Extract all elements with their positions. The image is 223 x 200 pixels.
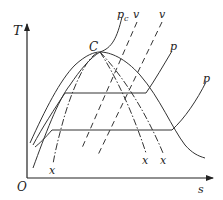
volume-label-2: v [159, 8, 166, 21]
quality-line-mid [100, 52, 146, 153]
axes [27, 24, 213, 178]
critical-pressure-sub: c [124, 14, 129, 23]
ts-diagram: T s O C pc v v p p x x x [0, 0, 223, 200]
origin-label: O [17, 180, 27, 194]
quality-label-mid: x [142, 154, 149, 167]
pressure-label-2: p [203, 72, 210, 85]
quality-line-left [53, 53, 97, 164]
isobar-high-superheated [146, 51, 172, 93]
critical-point-label: C [89, 40, 98, 54]
quality-label-left: x [49, 164, 56, 177]
quality-label-right: x [160, 154, 167, 167]
critical-pressure-label: pc [117, 8, 129, 23]
x-axis-label: s [198, 183, 204, 196]
critical-pressure-main: p [117, 8, 124, 21]
critical-isobar [100, 17, 122, 52]
volume-label-1: v [133, 8, 140, 21]
pressure-label-1: p [170, 40, 177, 53]
y-axis-label: T [13, 23, 23, 38]
saturation-dome [30, 52, 205, 158]
isobar-low-superheated [172, 82, 206, 130]
